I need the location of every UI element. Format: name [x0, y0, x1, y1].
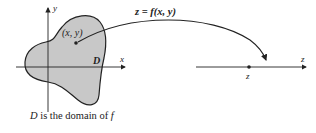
x-axis-label: x [119, 54, 124, 64]
point-label: (x, y) [62, 27, 83, 39]
y-axis-label: y [52, 3, 57, 13]
z-point-label: z [245, 71, 250, 81]
function-label: z = f(x, y) [134, 6, 176, 18]
domain-function-diagram: y x (x, y) D z = f(x, y) z z D is the do… [0, 0, 316, 133]
caption-domain-var: D [30, 110, 38, 121]
domain-label: D [92, 55, 100, 66]
z-axis-label: z [300, 54, 305, 64]
caption: D is the domain of f [30, 110, 114, 121]
caption-function-var: f [111, 110, 114, 121]
caption-text: is the domain of [38, 110, 111, 121]
z-point [247, 65, 251, 69]
domain-point [74, 41, 78, 45]
